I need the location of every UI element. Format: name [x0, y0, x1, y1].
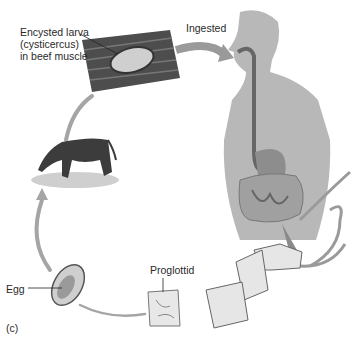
tapeworm-life-cycle-diagram: Encysted larva (cysticercus) in beef mus… — [0, 0, 364, 344]
egg — [45, 259, 91, 311]
egg-label: Egg — [6, 283, 25, 295]
proglottid-segment — [148, 290, 180, 326]
cow-grazing — [31, 138, 119, 188]
ingested-arrow — [176, 44, 234, 62]
panel-label: (c) — [6, 322, 18, 334]
beef-muscle — [82, 30, 180, 92]
larva-label-line1: Encysted larva — [20, 26, 89, 38]
tapeworm-segments — [206, 244, 302, 328]
ingested-label: Ingested — [186, 22, 226, 34]
larva-label-line3: in beef muscle — [20, 50, 89, 62]
proglottid-label: Proglottid — [150, 264, 194, 276]
cycle-arrows — [36, 96, 145, 316]
larva-label: Encysted larva (cysticercus) in beef mus… — [20, 26, 89, 62]
larva-label-line2: (cysticercus) — [20, 38, 89, 50]
